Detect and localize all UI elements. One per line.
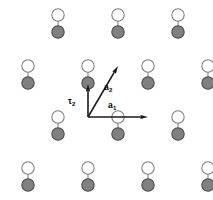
atom-sublattice-b — [142, 162, 154, 174]
atom-sublattice-a — [202, 77, 213, 89]
vector-label-a1: a1 — [108, 101, 116, 110]
atom-sublattice-b — [52, 9, 64, 21]
vector-label-tau2: τ2 — [68, 97, 75, 106]
atom-sublattice-b — [172, 111, 184, 123]
bond-layer — [28, 15, 208, 185]
atom-sublattice-a — [142, 77, 154, 89]
atom-sublattice-b — [22, 162, 34, 174]
atom-sublattice-a — [52, 128, 64, 140]
vector-label-a2: a2 — [104, 83, 112, 92]
atom-sublattice-b — [22, 60, 34, 72]
atom-sublattice-b — [52, 111, 64, 123]
lattice-figure: a1 a2 τ2 — [0, 0, 213, 200]
atom-sublattice-a — [112, 128, 124, 140]
atom-sublattice-a — [172, 128, 184, 140]
atom-sublattice-a — [202, 179, 213, 191]
lattice-canvas — [0, 0, 213, 200]
atom-sublattice-b — [172, 9, 184, 21]
atom-sublattice-b — [202, 60, 213, 72]
vector-arrowhead-a2 — [112, 66, 118, 74]
atom-sublattice-b — [82, 162, 94, 174]
atom-sublattice-b — [82, 60, 94, 72]
atom-sublattice-b — [112, 9, 124, 21]
atom-sublattice-a — [82, 179, 94, 191]
atom-sublattice-a — [22, 179, 34, 191]
atom-sublattice-a — [52, 26, 64, 38]
atom-sublattice-b — [142, 60, 154, 72]
atom-sublattice-b — [202, 162, 213, 174]
atom-sublattice-a — [142, 179, 154, 191]
atom-sublattice-a — [172, 26, 184, 38]
atom-sublattice-a — [112, 26, 124, 38]
atom-layer — [22, 9, 213, 191]
vector-arrowhead-a1 — [141, 115, 149, 119]
atom-sublattice-a — [22, 77, 34, 89]
